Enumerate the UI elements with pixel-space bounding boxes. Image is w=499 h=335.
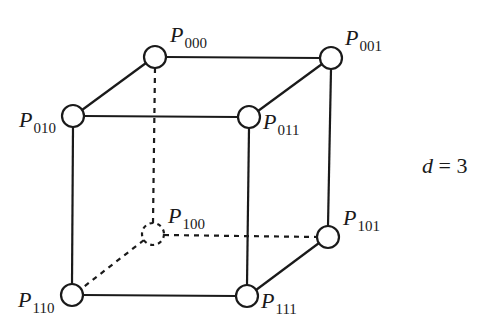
edge-p001-p011 bbox=[258, 64, 322, 111]
edge-p100-p110-hidden bbox=[81, 240, 144, 289]
edges bbox=[72, 57, 331, 296]
edge-p100-p101-hidden bbox=[164, 235, 317, 237]
dimension-label: d = 3 bbox=[422, 153, 467, 179]
label-subscript: 001 bbox=[359, 38, 382, 54]
label-letter: P bbox=[19, 107, 32, 132]
edge-p001-p101 bbox=[328, 69, 331, 226]
label-letter: P bbox=[261, 288, 274, 313]
node-p001 bbox=[320, 47, 342, 69]
label-letter: P bbox=[263, 109, 276, 134]
label-letter: P bbox=[343, 205, 356, 230]
label-subscript: 100 bbox=[182, 216, 205, 232]
label-subscript: 000 bbox=[184, 35, 207, 51]
label-subscript: 010 bbox=[33, 120, 56, 136]
label-p110: P110 bbox=[18, 287, 54, 313]
edge-p000-p010 bbox=[82, 63, 146, 110]
edge-p000-p001 bbox=[166, 57, 320, 58]
edge-p011-p111 bbox=[247, 128, 249, 285]
node-p110 bbox=[61, 284, 83, 306]
label-subscript: 101 bbox=[357, 218, 380, 234]
label-letter: P bbox=[168, 203, 181, 228]
dimension-operator: = bbox=[433, 153, 456, 178]
label-subscript: 110 bbox=[32, 300, 54, 316]
edge-p010-p110 bbox=[72, 127, 73, 284]
edge-p000-p100-hidden bbox=[153, 68, 155, 223]
label-letter: P bbox=[170, 22, 183, 47]
label-letter: P bbox=[18, 287, 31, 312]
label-p011: P011 bbox=[263, 109, 299, 135]
label-p001: P001 bbox=[345, 25, 382, 51]
dimension-variable: d bbox=[422, 153, 433, 178]
node-p010 bbox=[62, 105, 84, 127]
node-p011 bbox=[238, 106, 260, 128]
node-p000 bbox=[144, 46, 166, 68]
label-p000: P000 bbox=[170, 22, 207, 48]
label-p111: P111 bbox=[261, 288, 297, 314]
label-subscript: 011 bbox=[277, 122, 299, 138]
node-p101 bbox=[317, 226, 339, 248]
nodes bbox=[61, 46, 342, 307]
label-subscript: 111 bbox=[275, 301, 296, 317]
edge-p110-p111 bbox=[83, 295, 236, 296]
dimension-value: 3 bbox=[456, 153, 467, 178]
edge-p010-p011 bbox=[84, 116, 238, 117]
label-p010: P010 bbox=[19, 107, 56, 133]
node-p100-hidden bbox=[142, 223, 164, 245]
label-letter: P bbox=[345, 25, 358, 50]
label-p100: P100 bbox=[168, 203, 205, 229]
edge-p111-p101 bbox=[256, 243, 319, 290]
node-p111 bbox=[236, 285, 258, 307]
label-p101: P101 bbox=[343, 205, 380, 231]
